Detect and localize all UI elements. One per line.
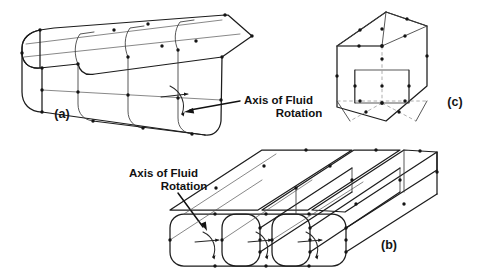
rotation-arrow-b1: [195, 232, 219, 260]
wedge-left-endcap: [22, 30, 40, 68]
prism-2-top-right-edge: [310, 168, 400, 228]
technical-diagram: (a) Axis of Fluid Rotation: [0, 0, 479, 275]
wedge-top-seam-2: [24, 34, 240, 57]
hex-lower-left-edge: [337, 101, 350, 121]
prism-node-set: [168, 148, 438, 267]
wedge-front-seam: [42, 90, 221, 100]
panel-c-label: (c): [447, 95, 462, 109]
annotation-a-line1: Axis of Fluid: [244, 94, 313, 106]
wedge-front-lower-right: [205, 57, 222, 135]
panel-b-three-prisms: (b): [168, 148, 438, 267]
wedge-top-seam-1: [26, 20, 222, 44]
wedge-bottom-silhouette: [93, 121, 205, 135]
wedge-left-lower: [22, 52, 42, 112]
panel-b-label: (b): [381, 238, 397, 252]
rotation-arrow-a: [161, 86, 188, 117]
prism-2-top: [262, 150, 400, 210]
annotation-axis-a: Axis of Fluid Rotation: [184, 94, 322, 119]
annotation-b-line1: Axis of Fluid: [129, 167, 198, 179]
panel-a-label: (a): [54, 107, 69, 121]
annotation-a-leader: [190, 101, 240, 110]
hex-edge-tl: [337, 12, 386, 46]
panel-c-hexagon: (c): [335, 12, 462, 121]
hex-lower-right-edge: [416, 101, 427, 121]
annotation-a-line2: Rotation: [276, 107, 323, 119]
panel-a-wedge: (a): [20, 13, 253, 135]
figure-container: (a) Axis of Fluid Rotation: [0, 0, 479, 275]
annotation-axis-b: Axis of Fluid Rotation: [129, 167, 207, 231]
